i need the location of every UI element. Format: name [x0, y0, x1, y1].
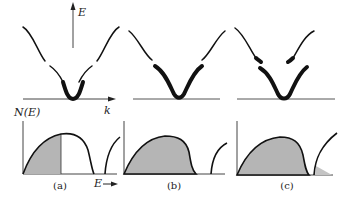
- caption-a: (a): [53, 180, 67, 191]
- band-structure-diagram: E k N(E): [0, 0, 352, 203]
- dos-panel-a: N(E) E (a): [13, 106, 120, 191]
- dispersion-b: [129, 31, 225, 98]
- k-axis-label: k: [104, 104, 111, 117]
- energy-bottom-label: E: [93, 177, 102, 190]
- dispersion-c: [235, 28, 314, 99]
- occupied-states-c-upper: [315, 166, 332, 175]
- dispersion-a: [23, 27, 119, 99]
- dos-panel-b: (b): [124, 121, 227, 191]
- caption-c: (c): [280, 180, 294, 191]
- occupied-states-b: [124, 136, 196, 174]
- energy-axis: E: [71, 2, 87, 48]
- occupied-states-c-lower: [237, 137, 309, 175]
- dos-panel-c: (c): [237, 121, 337, 191]
- energy-axis-label: E: [77, 6, 86, 19]
- caption-b: (b): [167, 180, 181, 191]
- dos-axis-label: N(E): [13, 106, 40, 119]
- occupied-states-a: [23, 134, 61, 174]
